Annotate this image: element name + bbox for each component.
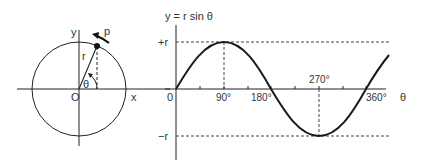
angle-label: θ <box>83 78 89 90</box>
sine-title: y = r sin θ <box>165 10 213 22</box>
tick-label-270: 270° <box>309 74 330 85</box>
theta-axis-label: θ <box>400 91 406 103</box>
tick-label-180: 180° <box>251 92 272 103</box>
sine-origin-label: 0 <box>167 91 173 103</box>
rotation-arrowhead-icon <box>92 32 99 39</box>
minus-r-label: −r <box>158 130 168 142</box>
tick-label-360: 360° <box>366 92 387 103</box>
circle-y-label: y <box>71 26 77 38</box>
point-label: p <box>104 25 110 37</box>
angle-arc <box>90 75 97 89</box>
tick-label-90: 90° <box>216 92 231 103</box>
circle-x-label: x <box>131 91 137 103</box>
circle-diagram: y x O r θ p <box>17 25 170 146</box>
plus-r-label: +r <box>158 36 168 48</box>
radius-label: r <box>82 50 86 62</box>
sine-graph: y = r sin θ +r −r 0 90° 180° 270° 360° θ <box>158 10 406 160</box>
point-p-dot <box>94 43 100 49</box>
sine-wave-diagram: y x O r θ p y = r sin θ +r <box>0 0 426 167</box>
circle-origin-label: O <box>71 91 80 103</box>
rotation-arrow-icon <box>97 36 109 43</box>
